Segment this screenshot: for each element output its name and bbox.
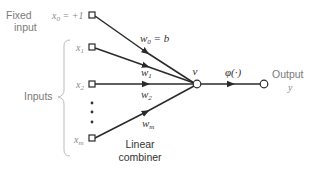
input-node-x2: [89, 81, 95, 87]
fixed-input-label-line2: input: [14, 21, 37, 33]
summing-node-label: v: [193, 65, 198, 77]
weight-w2-label: w2: [141, 88, 152, 102]
input-xm-symbol: xm: [73, 134, 84, 147]
summing-node: [193, 80, 201, 88]
edge-x1: [146, 66, 194, 83]
combiner-label-line1: Linear: [125, 138, 155, 150]
edge-xm-arrow: [95, 112, 146, 138]
input-node-xm: [89, 135, 95, 141]
fixed-input-symbol: x0 = +1: [51, 10, 83, 23]
weight-wm-label: wm: [142, 117, 154, 131]
output-node: [260, 80, 268, 88]
ellipsis-dot: [91, 102, 94, 105]
weight-w0-label: w0 = b: [140, 32, 170, 46]
activation-function-label: φ(·): [225, 66, 241, 79]
output-label: Output: [272, 68, 304, 80]
edge-x1-arrow: [95, 48, 146, 66]
combiner-label-line2: combiner: [118, 151, 162, 163]
ellipsis-dot: [91, 111, 94, 114]
ellipsis-dot: [91, 121, 94, 124]
input-node-x0: [89, 12, 95, 18]
fixed-input-label-line1: Fixed: [6, 9, 32, 21]
inputs-label: Inputs: [24, 90, 53, 102]
output-symbol: y: [287, 82, 293, 93]
input-x2-symbol: x2: [75, 79, 84, 92]
input-x1-symbol: x1: [75, 42, 84, 55]
edge-x0-arrow: [95, 16, 146, 52]
edge-xm: [146, 86, 194, 112]
perceptron-diagram: Fixed input x0 = +1 Inputs x1 x2 xm w0 =…: [0, 0, 320, 171]
inputs-brace: [58, 40, 70, 156]
input-node-x1: [89, 44, 95, 50]
edge-x0: [146, 52, 194, 83]
